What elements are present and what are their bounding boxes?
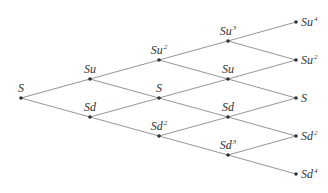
node-dot-n1_0: [88, 77, 92, 81]
edge-n3_0-n4_1: [228, 41, 296, 60]
edge-n0_0-n1_1: [21, 98, 90, 117]
node-label-n3_0: Su3: [220, 24, 237, 38]
node-label-n0_0: S: [18, 81, 24, 95]
edge-n3_1-n4_2: [228, 79, 296, 98]
node-dot-n4_3: [294, 134, 298, 138]
node-label-n2_1: S: [156, 81, 162, 95]
node-dot-n3_2: [226, 115, 230, 119]
edge-n2_2-n3_2: [159, 117, 228, 136]
edge-n2_0-n3_0: [159, 41, 228, 60]
node-dot-n3_0: [226, 39, 230, 43]
node-label-n1_1: Sd: [84, 100, 97, 114]
node-dot-n0_0: [19, 96, 23, 100]
edge-n1_1-n2_1: [90, 98, 159, 117]
node-label-n2_2: Sd2: [151, 119, 168, 133]
node-dot-n4_2: [294, 96, 298, 100]
node-dot-n2_1: [157, 96, 161, 100]
edge-n1_0-n2_1: [90, 79, 159, 98]
node-dot-n2_0: [157, 58, 161, 62]
node-dot-n4_4: [294, 172, 298, 176]
node-label-n4_1: Su2: [301, 53, 318, 67]
node-dot-n1_1: [88, 115, 92, 119]
edge-n3_2-n4_2: [228, 98, 296, 117]
edge-n3_3-n4_4: [228, 155, 296, 174]
edge-n2_0-n3_1: [159, 60, 228, 79]
node-dot-n3_1: [226, 77, 230, 81]
node-label-n4_3: Sd2: [301, 129, 318, 143]
edge-n2_1-n3_2: [159, 98, 228, 117]
node-dot-n2_2: [157, 134, 161, 138]
tree-labels: SSuSdSu2SSd2Su3SuSdSd3Su4Su2SSd2Sd4: [18, 15, 318, 181]
node-dot-n3_3: [226, 153, 230, 157]
node-label-n3_2: Sd: [222, 100, 235, 114]
node-label-n3_3: Sd3: [220, 138, 237, 152]
edge-n2_1-n3_1: [159, 79, 228, 98]
node-label-n3_1: Su: [222, 62, 234, 76]
edge-n3_3-n4_3: [228, 136, 296, 155]
node-label-n1_0: Su: [84, 62, 96, 76]
edge-n1_0-n2_0: [90, 60, 159, 79]
edge-n1_1-n2_2: [90, 117, 159, 136]
edge-n0_0-n1_0: [21, 79, 90, 98]
node-dot-n4_0: [294, 20, 298, 24]
node-dot-n4_1: [294, 58, 298, 62]
node-label-n2_0: Su2: [151, 43, 168, 57]
node-label-n4_2: S: [301, 91, 307, 105]
edge-n2_2-n3_3: [159, 136, 228, 155]
node-label-n4_0: Su4: [301, 15, 318, 29]
binomial-tree-diagram: SSuSdSu2SSd2Su3SuSdSd3Su4Su2SSd2Sd4: [0, 0, 328, 193]
edge-n3_2-n4_3: [228, 117, 296, 136]
edge-n3_0-n4_0: [228, 22, 296, 41]
edge-n3_1-n4_1: [228, 60, 296, 79]
node-label-n4_4: Sd4: [301, 167, 318, 181]
